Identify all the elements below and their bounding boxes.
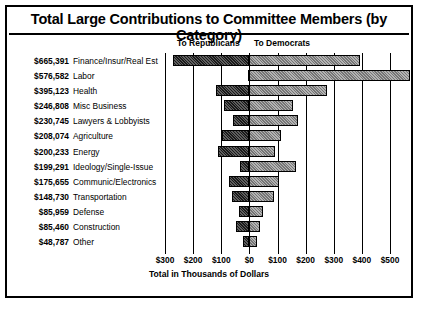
- bar-democrat[interactable]: [249, 146, 274, 157]
- tick-3: [249, 249, 250, 254]
- category-label: Communic/Electronics: [73, 177, 156, 188]
- title-divider: [9, 33, 409, 35]
- header-to-democrats: To Democrats: [254, 38, 310, 48]
- category-label: Construction: [73, 222, 120, 233]
- tick-8: [390, 249, 391, 254]
- category-label: Labor: [73, 71, 94, 82]
- category-label: Agriculture: [73, 131, 113, 142]
- bar-republican[interactable]: [229, 176, 249, 187]
- category-label: Energy: [73, 147, 100, 158]
- gridline-500: [390, 53, 391, 249]
- bar-republican[interactable]: [236, 221, 249, 232]
- tick-6: [334, 249, 335, 254]
- category-labels: Finance/Insur/Real EstLaborHealthMisc Bu…: [21, 53, 161, 249]
- bar-row[interactable]: [165, 85, 390, 96]
- bar-republican[interactable]: [232, 191, 249, 202]
- bar-democrat[interactable]: [249, 176, 279, 187]
- bar-republican[interactable]: [218, 146, 249, 157]
- bar-republican[interactable]: [173, 55, 250, 66]
- bar-row[interactable]: [165, 221, 390, 232]
- bar-democrat[interactable]: [249, 130, 280, 141]
- chart-frame: Total Large Contributions to Committee M…: [5, 5, 413, 298]
- bar-row[interactable]: [165, 236, 390, 247]
- bar-row[interactable]: [165, 100, 390, 111]
- bar-republican[interactable]: [222, 130, 249, 141]
- bar-democrat[interactable]: [249, 236, 257, 247]
- category-label: Misc Business: [73, 101, 127, 112]
- tick-0: [165, 249, 166, 254]
- tick-5: [306, 249, 307, 254]
- category-label: Transportation: [73, 192, 127, 203]
- bar-row[interactable]: [165, 206, 390, 217]
- tick-7: [362, 249, 363, 254]
- category-label: Lawyers & Lobbyists: [73, 116, 150, 127]
- tick-4: [278, 249, 279, 254]
- bar-republican[interactable]: [216, 85, 249, 96]
- x-axis-title: Total in Thousands of Dollars: [7, 269, 411, 279]
- bar-row[interactable]: [165, 146, 390, 157]
- category-label: Defense: [73, 207, 104, 218]
- category-label: Health: [73, 86, 97, 97]
- bar-democrat[interactable]: [249, 100, 293, 111]
- bar-republican[interactable]: [224, 100, 250, 111]
- bar-democrat[interactable]: [249, 115, 298, 126]
- category-label: Finance/Insur/Real Est: [73, 56, 158, 67]
- bar-democrat[interactable]: [249, 70, 410, 81]
- x-axis-tick-labels: $300$200$100$0$100$200$300$400$500: [165, 255, 390, 267]
- bar-row[interactable]: [165, 176, 390, 187]
- bar-democrat[interactable]: [249, 55, 359, 66]
- plot-area: [165, 53, 390, 249]
- tick-2: [221, 249, 222, 254]
- category-label: Ideology/Single-Issue: [73, 162, 153, 173]
- bar-row[interactable]: [165, 191, 390, 202]
- bar-democrat[interactable]: [249, 191, 273, 202]
- bars-layer: [165, 53, 390, 249]
- bar-republican[interactable]: [239, 206, 249, 217]
- bar-democrat[interactable]: [249, 161, 295, 172]
- bar-row[interactable]: [165, 130, 390, 141]
- bar-democrat[interactable]: [249, 206, 263, 217]
- bar-row[interactable]: [165, 161, 390, 172]
- bar-democrat[interactable]: [249, 85, 327, 96]
- bar-row[interactable]: [165, 55, 390, 66]
- category-label: Other: [73, 237, 94, 248]
- header-to-republicans: To Republicans: [177, 38, 240, 48]
- bar-row[interactable]: [165, 70, 390, 81]
- x-tick-label-8: $500: [373, 255, 407, 265]
- bar-republican[interactable]: [233, 115, 249, 126]
- bar-row[interactable]: [165, 115, 390, 126]
- tick-1: [193, 249, 194, 254]
- bar-republican[interactable]: [240, 161, 250, 172]
- bar-democrat[interactable]: [249, 221, 260, 232]
